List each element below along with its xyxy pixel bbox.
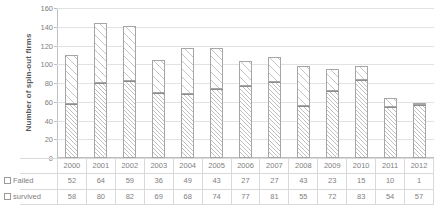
- bar-segment-failed[interactable]: [355, 66, 368, 80]
- table-cell: 2012: [404, 158, 434, 173]
- legend-label-survived: survived: [13, 192, 41, 201]
- table-cell: 83: [346, 189, 375, 204]
- table-cell: 57: [404, 189, 434, 204]
- table-cell: 2000: [57, 158, 86, 173]
- bar-column[interactable]: [94, 23, 107, 158]
- y-axis-tick-label: 20: [45, 135, 53, 144]
- row-header-years: [0, 158, 57, 173]
- table-cell: 43: [288, 173, 317, 188]
- bar-column[interactable]: [181, 48, 194, 158]
- bar-segment-survived[interactable]: [152, 93, 165, 158]
- bar-segment-survived[interactable]: [268, 82, 281, 158]
- bar-segment-failed[interactable]: [384, 98, 397, 107]
- bar-column[interactable]: [384, 98, 397, 158]
- table-row-failed: Failed 5264593649432727432315101: [0, 173, 434, 188]
- bar-segment-survived[interactable]: [384, 107, 397, 158]
- table-cell: 2003: [144, 158, 173, 173]
- table-cell: 74: [202, 189, 231, 204]
- table-cell: 2002: [115, 158, 144, 173]
- bar-segment-survived[interactable]: [65, 104, 78, 158]
- bar-segment-survived[interactable]: [123, 81, 136, 158]
- table-cell: 58: [57, 189, 86, 204]
- legend-item-failed[interactable]: Failed: [0, 173, 57, 188]
- y-axis-tick-label: 140: [40, 22, 53, 31]
- y-axis-tick-label: 100: [40, 60, 53, 69]
- table-cell: 2006: [231, 158, 260, 173]
- bar-segment-survived[interactable]: [181, 94, 194, 158]
- plot-area: 020406080100120140160: [57, 8, 434, 158]
- bar-column[interactable]: [123, 26, 136, 158]
- table-cell: 2010: [346, 158, 375, 173]
- bar-column[interactable]: [326, 69, 339, 158]
- bar-segment-failed[interactable]: [326, 69, 339, 91]
- table-cell: 23: [317, 173, 346, 188]
- bar-segment-failed[interactable]: [210, 48, 223, 88]
- table-cell: 80: [86, 189, 115, 204]
- table-cell: 36: [144, 173, 173, 188]
- table-divider: [20, 204, 434, 205]
- bar-segment-survived[interactable]: [326, 91, 339, 159]
- table-cell: 69: [144, 189, 173, 204]
- bar-column[interactable]: [413, 103, 426, 158]
- table-row-years: 2000200120022003200420052006200720082009…: [0, 158, 434, 173]
- table-cell: 72: [317, 189, 346, 204]
- bar-segment-failed[interactable]: [123, 26, 136, 81]
- table-cell: 43: [202, 173, 231, 188]
- table-cell: 1: [404, 173, 434, 188]
- bar-column[interactable]: [297, 66, 310, 158]
- table-cell: 54: [375, 189, 404, 204]
- table-cell: 55: [288, 189, 317, 204]
- data-table: 2000200120022003200420052006200720082009…: [0, 158, 434, 204]
- bar-segment-failed[interactable]: [181, 48, 194, 94]
- table-cell: 2001: [86, 158, 115, 173]
- y-axis-title: Number of spin-out firms: [24, 8, 33, 158]
- table-cell: 68: [173, 189, 202, 204]
- y-axis-tick-label: 80: [45, 79, 53, 88]
- table-cell: 82: [115, 189, 144, 204]
- y-axis-tick-label: 160: [40, 4, 53, 13]
- bar-segment-failed[interactable]: [65, 55, 78, 104]
- bar-column[interactable]: [268, 57, 281, 158]
- table-cell: 10: [375, 173, 404, 188]
- y-axis-tick-label: 120: [40, 41, 53, 50]
- table-cell: 81: [259, 189, 288, 204]
- table-cell: 2007: [259, 158, 288, 173]
- table-cell: 27: [231, 173, 260, 188]
- bar-column[interactable]: [239, 61, 252, 159]
- bar-segment-failed[interactable]: [297, 66, 310, 106]
- bar-series-group: [57, 8, 434, 158]
- bar-segment-failed[interactable]: [239, 61, 252, 86]
- table-cell: 59: [115, 173, 144, 188]
- table-cell: 52: [57, 173, 86, 188]
- bar-segment-failed[interactable]: [268, 57, 281, 82]
- bar-segment-survived[interactable]: [413, 105, 426, 158]
- bar-column[interactable]: [65, 55, 78, 158]
- bar-segment-survived[interactable]: [94, 83, 107, 158]
- bar-column[interactable]: [152, 60, 165, 158]
- bar-segment-survived[interactable]: [210, 89, 223, 158]
- bar-segment-survived[interactable]: [297, 106, 310, 158]
- table-row-survived: survived 58808269687477815572835457: [0, 189, 434, 204]
- table-cell: 2009: [317, 158, 346, 173]
- table-cell: 49: [173, 173, 202, 188]
- table-cell: 2008: [288, 158, 317, 173]
- bar-column[interactable]: [355, 66, 368, 158]
- table-cell: 2011: [375, 158, 404, 173]
- legend-swatch-survived-icon: [4, 193, 11, 200]
- legend-item-survived[interactable]: survived: [0, 189, 57, 204]
- y-axis-tick-label: 60: [45, 97, 53, 106]
- y-axis-tick-label: 40: [45, 116, 53, 125]
- table-cell: 15: [346, 173, 375, 188]
- bar-segment-survived[interactable]: [239, 86, 252, 158]
- legend-swatch-failed-icon: [4, 177, 11, 184]
- legend-label-failed: Failed: [13, 176, 33, 185]
- table-cell: 27: [259, 173, 288, 188]
- table-cell: 2004: [173, 158, 202, 173]
- table-cell: 64: [86, 173, 115, 188]
- table-cell: 77: [231, 189, 260, 204]
- bar-segment-failed[interactable]: [94, 23, 107, 83]
- bar-column[interactable]: [210, 48, 223, 158]
- bar-segment-failed[interactable]: [152, 60, 165, 94]
- bar-segment-survived[interactable]: [355, 80, 368, 158]
- stacked-bar-chart: Number of spin-out firms 020406080100120…: [0, 0, 440, 211]
